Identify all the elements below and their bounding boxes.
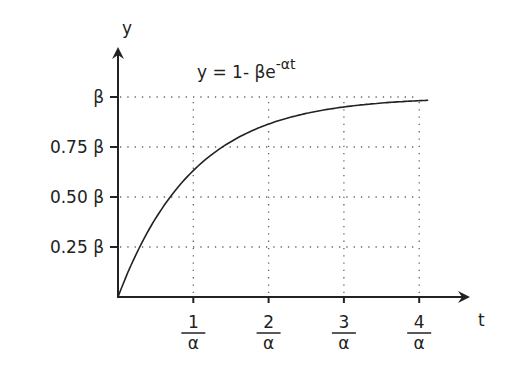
y-tick-label: 0.75 β: [50, 137, 104, 157]
x-tick-labels: 1α2α3α4α: [181, 312, 431, 353]
x-tick-denominator: α: [414, 333, 425, 353]
y-tick-label: β: [93, 87, 104, 107]
curve-series: [118, 100, 428, 297]
y-tick-labels: β0.75 β0.50 β0.25 β: [50, 87, 104, 257]
chart: β0.75 β0.50 β0.25 β 1α2α3α4α y t y = 1- …: [0, 0, 511, 371]
x-tick-numerator: 2: [263, 312, 274, 332]
grid-lines: [120, 97, 419, 293]
x-tick-denominator: α: [263, 333, 274, 353]
x-tick-numerator: 4: [414, 312, 425, 332]
axes: [112, 47, 470, 303]
x-tick-numerator: 1: [188, 312, 199, 332]
y-tick-label: 0.25 β: [50, 237, 104, 257]
x-tick-numerator: 3: [338, 312, 349, 332]
tick-marks: [110, 97, 419, 303]
x-tick-denominator: α: [188, 333, 199, 353]
x-axis-label: t: [478, 310, 485, 330]
title-main: y = 1- βe: [197, 62, 276, 82]
x-tick-denominator: α: [338, 333, 349, 353]
y-tick-label: 0.50 β: [50, 187, 104, 207]
title-exponent: -αt: [276, 56, 296, 72]
chart-title: y = 1- βe-αt: [197, 56, 296, 82]
y-axis-label: y: [122, 18, 132, 38]
